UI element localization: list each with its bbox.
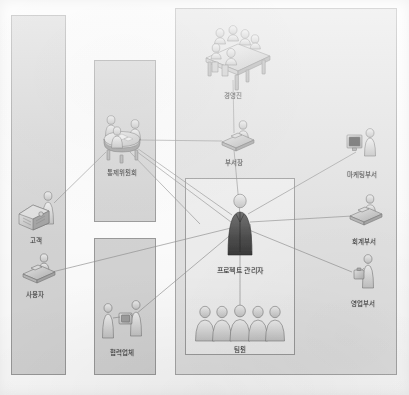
icon-project-manager-figure <box>228 194 252 255</box>
label-user: 사용자 <box>26 292 45 299</box>
label-executives: 경영진 <box>224 93 243 100</box>
stakeholder-diagram-image: 경영진 부서장 마케팅부서 회계부서 영업부서 통제위원회 협력업체 고객 사용… <box>0 0 409 395</box>
icon-sales-person <box>354 255 374 288</box>
diagram-artwork <box>0 0 409 395</box>
label-partner-company: 협력업체 <box>110 350 135 357</box>
label-department-head: 부서장 <box>225 160 244 167</box>
icon-customer-machine <box>19 192 54 230</box>
label-customer: 고객 <box>30 238 42 245</box>
label-accounting-dept: 회계부서 <box>352 239 377 246</box>
icon-partner-handshake <box>103 301 142 338</box>
label-project-manager: 프로젝트 관리자 <box>217 268 264 275</box>
label-sales-dept: 영업부서 <box>351 301 376 308</box>
label-control-committee: 통제위원회 <box>107 170 138 177</box>
icon-team-members-row <box>196 305 285 341</box>
icon-control-committee-table <box>104 116 141 163</box>
icon-accounting-desk <box>350 195 382 225</box>
label-marketing-dept: 마케팅부서 <box>347 172 378 179</box>
icon-department-head-desk <box>222 121 254 151</box>
icon-meeting-table <box>206 26 270 90</box>
icon-user-desk <box>23 254 55 283</box>
icon-marketing-monitor <box>347 129 376 156</box>
label-team-members: 팀원 <box>234 347 246 354</box>
